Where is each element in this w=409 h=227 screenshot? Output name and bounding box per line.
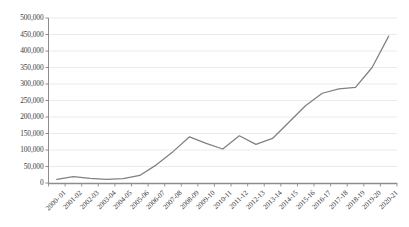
y-axis-tick-label: 300,000	[20, 79, 43, 88]
y-axis-tick-label: 350,000	[20, 63, 43, 72]
y-axis-tick-label: 450,000	[20, 30, 43, 39]
y-axis-tick-label: 500,000	[20, 13, 43, 22]
y-axis-tick-label: 0	[40, 178, 44, 187]
data-series-line	[57, 36, 389, 179]
y-axis-tick-label: 150,000	[20, 129, 43, 138]
y-axis-tick-label: 250,000	[20, 96, 43, 105]
y-axis-tick-label: 400,000	[20, 46, 43, 55]
y-axis-tick-label: 50,000	[24, 162, 44, 171]
line-chart: 500,000450,000400,000350,000300,000250,0…	[0, 0, 409, 227]
gridlines	[49, 18, 398, 167]
y-axis-tick-label: 200,000	[20, 112, 43, 121]
y-axis-tick-label: 100,000	[20, 145, 43, 154]
